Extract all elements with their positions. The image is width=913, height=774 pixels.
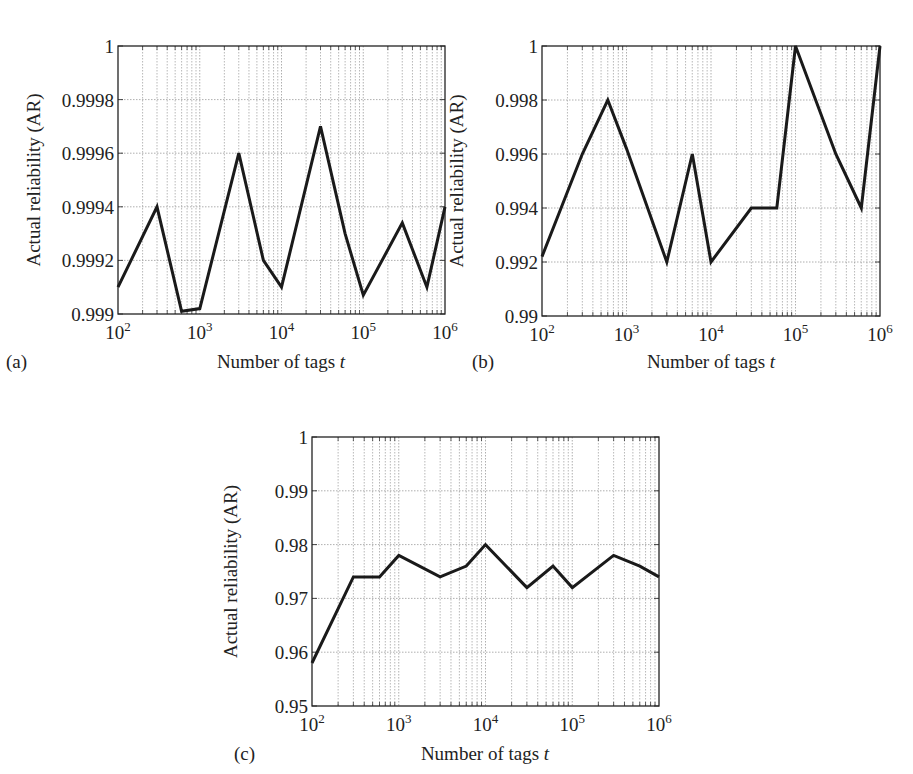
chart-panel-b: 0.990.9920.9940.9960.9981102103104105106… [446, 36, 893, 373]
figure: 0.9990.99920.99940.99960.999811021031041… [0, 0, 913, 774]
svg-text:106: 106 [646, 711, 672, 735]
grid-lines [312, 437, 659, 706]
svg-text:1: 1 [529, 36, 539, 57]
svg-text:0.97: 0.97 [275, 588, 308, 609]
panel-label: (b) [472, 351, 494, 373]
svg-text:0.9994: 0.9994 [62, 197, 115, 218]
svg-text:105: 105 [783, 321, 809, 345]
svg-text:0.9992: 0.9992 [62, 250, 114, 271]
x-axis-label: Number of tags t [217, 351, 346, 372]
x-tick-labels: 102103104105106 [299, 711, 672, 735]
y-tick-labels: 0.9990.99920.99940.99960.99981 [62, 36, 115, 325]
y-axis-label: Actual reliability (AR) [446, 94, 468, 267]
svg-text:104: 104 [473, 711, 499, 735]
y-tick-labels: 0.990.9920.9940.9960.9981 [495, 36, 538, 327]
svg-text:0.9998: 0.9998 [62, 90, 114, 111]
svg-text:0.98: 0.98 [275, 535, 308, 556]
svg-text:102: 102 [299, 711, 325, 735]
panel-label: (c) [234, 743, 255, 765]
x-axis-label: Number of tags t [647, 351, 776, 372]
svg-text:102: 102 [529, 321, 555, 345]
svg-text:106: 106 [867, 321, 893, 345]
svg-text:104: 104 [269, 319, 295, 343]
grid-lines [118, 46, 445, 314]
svg-text:1: 1 [105, 36, 115, 57]
svg-text:0.99: 0.99 [275, 481, 308, 502]
svg-text:105: 105 [351, 319, 377, 343]
chart-panel-c: 0.950.960.970.980.991102103104105106Numb… [220, 427, 672, 765]
x-tick-labels: 102103104105106 [529, 321, 893, 345]
svg-text:0.994: 0.994 [495, 198, 538, 219]
x-tick-labels: 102103104105106 [105, 319, 458, 343]
svg-text:103: 103 [614, 321, 640, 345]
y-axis-label: Actual reliability (AR) [220, 485, 242, 658]
svg-text:0.9996: 0.9996 [62, 143, 114, 164]
chart-panel-a: 0.9990.99920.99940.99960.999811021031041… [6, 36, 458, 373]
grid-lines [542, 46, 880, 316]
y-axis-label: Actual reliability (AR) [23, 93, 45, 266]
y-tick-labels: 0.950.960.970.980.991 [275, 427, 308, 717]
figure-canvas: 0.9990.99920.99940.99960.999811021031041… [0, 0, 913, 774]
svg-text:102: 102 [105, 319, 131, 343]
svg-text:0.996: 0.996 [495, 144, 538, 165]
svg-text:0.96: 0.96 [275, 642, 308, 663]
svg-text:103: 103 [386, 711, 412, 735]
svg-text:1: 1 [299, 427, 309, 448]
svg-text:106: 106 [432, 319, 458, 343]
svg-text:103: 103 [187, 319, 213, 343]
svg-text:105: 105 [560, 711, 586, 735]
svg-text:104: 104 [698, 321, 724, 345]
svg-text:0.998: 0.998 [495, 90, 538, 111]
panel-label: (a) [6, 351, 27, 373]
svg-text:0.992: 0.992 [495, 252, 538, 273]
x-axis-label: Number of tags t [421, 743, 550, 764]
